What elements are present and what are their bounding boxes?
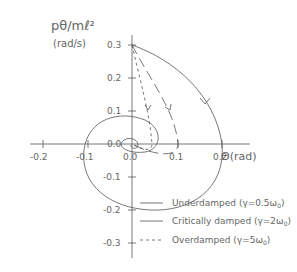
legend-critically-damped: Critically damped (γ=2ω0) [172,216,291,227]
x-tick-label: -0.1 [76,152,94,162]
y-tick-label: 0.1 [107,106,121,116]
y-tick-label: 0.3 [107,40,121,50]
x-tick-label: -0.2 [30,152,48,162]
y-tick-label: -0.3 [103,238,121,248]
phase-plot: -0.2 -0.1 0.0 0.1 0.2 0.3 0.2 0.1 0.0 -0… [0,0,297,272]
x-tick-label: 0.0 [123,152,138,162]
x-axis-label: Θ(rad) [221,150,257,163]
y-axis-unit: (rad/s) [53,38,86,49]
y-tick-label: -0.2 [103,205,121,215]
legend: Underdamped (γ=0.5ω0) Critically damped … [140,198,291,246]
legend-overdamped: Overdamped (γ=5ω0) [172,235,270,246]
arrow-icon [145,105,151,110]
overdamped-curve [132,45,152,149]
legend-underdamped: Underdamped (γ=0.5ω0) [172,198,284,209]
critically-damped-curve [132,45,178,154]
y-tick-label: 0.2 [107,73,121,83]
y-tick-label: -0.1 [103,172,121,182]
x-tick-label: 0.1 [169,152,183,162]
underdamped-curve [84,45,223,210]
y-axis-label: pθ/mℓ² [51,18,95,33]
y-tick-label: 0.0 [107,139,122,149]
